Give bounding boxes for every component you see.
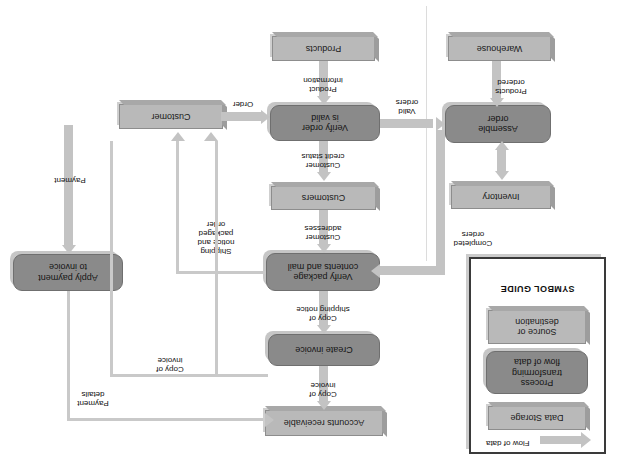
flow-label-product-information: Product information xyxy=(279,76,367,94)
data-store-inventory: Inventory xyxy=(451,185,551,209)
arrowhead-left-icon xyxy=(261,110,270,124)
arrowhead-up-icon xyxy=(495,171,509,180)
process-assemble-order: Assemble order xyxy=(445,105,551,143)
arrowhead-left-icon xyxy=(265,413,274,427)
arrowhead-up-icon xyxy=(317,244,331,253)
flow-label-payment-details: Payment details xyxy=(58,390,128,408)
node-label: Verify order is valid xyxy=(302,113,348,134)
symbol-guide-panel: Flow of data Data Storage Process transf… xyxy=(469,257,606,454)
arrow-customer-to-verify-order xyxy=(221,112,261,121)
process-verify-order: Verify order is valid xyxy=(270,105,380,141)
arrowhead-right-icon xyxy=(371,264,380,278)
process-apply-payment: Apply payment to invoice xyxy=(13,254,123,291)
external-entity-warehouse: Warehouse xyxy=(448,36,551,61)
arrowhead-up-icon xyxy=(490,98,504,107)
symbol-guide-process-shape: Process transforming flow of data xyxy=(486,351,588,394)
flow-label-copy-of-invoice-right: Copy of invoice xyxy=(135,356,205,374)
node-label: Accounts receivable xyxy=(284,418,365,428)
diagram-rotated-layer: Flow of data Data Storage Process transf… xyxy=(0,0,623,461)
symbol-guide-source-shape: Source or destination xyxy=(488,310,586,344)
process-create-invoice: Create invoice xyxy=(268,334,380,366)
node-label: Customers xyxy=(302,193,346,203)
data-store-customers: Customers xyxy=(271,186,376,210)
connector-copy-of-invoice-drop xyxy=(215,141,218,377)
node-label: Products xyxy=(306,43,342,53)
connector-copy-of-invoice-vertical xyxy=(110,141,113,377)
external-entity-customer: Customer xyxy=(119,104,223,129)
connector-shipping-notice-horizontal xyxy=(176,271,266,274)
connector-copy-of-invoice-horizontal xyxy=(110,374,268,377)
arrowhead-up-icon xyxy=(317,172,331,181)
arrowhead-up-icon xyxy=(317,96,331,105)
node-label: Create invoice xyxy=(295,345,353,355)
arrowhead-up-icon xyxy=(317,325,331,334)
flow-label-products-ordered: Products ordered xyxy=(471,78,551,96)
flow-label-valid-orders: Valid orders xyxy=(374,98,440,116)
symbol-guide-data-store-shape: Data Storage xyxy=(488,406,586,430)
node-label: Inventory xyxy=(482,192,519,202)
connector-payment-details-horizontal xyxy=(67,418,263,421)
arrowhead-up-icon xyxy=(62,245,76,254)
arrow-completed-orders-vertical xyxy=(436,130,445,275)
flow-label-completed-orders: Completed orders xyxy=(433,230,513,248)
node-label: Assemble order xyxy=(478,114,518,135)
arrowhead-down-icon xyxy=(495,141,509,150)
node-label: Warehouse xyxy=(477,43,523,53)
arrowhead-down-icon xyxy=(171,132,185,141)
node-label: Apply payment to invoice xyxy=(38,262,98,283)
arrow-verify-order-to-assemble-order xyxy=(380,119,433,128)
arrow-inventory-assemble-order-bidirectional xyxy=(497,150,506,172)
diagram-canvas: Flow of data Data Storage Process transf… xyxy=(0,0,623,461)
symbol-guide-title: SYMBOL GUIDE xyxy=(471,284,604,294)
data-store-accounts-receivable: Accounts receivable xyxy=(265,410,383,436)
symbol-guide-store-label: Data Storage xyxy=(510,413,563,423)
node-label: Verify package contents and mail xyxy=(288,262,359,283)
symbol-guide-process-label: Process transforming flow of data xyxy=(512,357,562,388)
flow-label-copy-of-invoice-up: Copy of invoice xyxy=(283,381,363,399)
arrowhead-down-icon xyxy=(204,132,218,141)
flow-label-payment: Payment xyxy=(35,176,105,185)
symbol-guide-source-label: Source or destination xyxy=(515,317,559,337)
arrowhead-up-icon xyxy=(317,401,331,410)
flow-label-customer-credit-status: Customer credit status xyxy=(275,152,371,170)
data-store-products: Products xyxy=(272,36,375,61)
process-verify-package: Verify package contents and mail xyxy=(266,253,380,291)
connector-shipping-notice-vertical xyxy=(176,141,179,274)
arrow-customer-to-apply-payment xyxy=(64,125,73,245)
flow-label-order: Order xyxy=(221,100,265,109)
symbol-guide-flow-label: Flow of data xyxy=(486,439,590,448)
flow-label-copy-of-shipping-notice: Copy of shipping notice xyxy=(268,305,378,323)
arrowhead-left-icon xyxy=(436,117,445,131)
node-label: Customer xyxy=(152,111,191,121)
page-hairline-divider xyxy=(426,6,427,261)
flow-label-customer-addresses: Customer addresses xyxy=(278,224,368,242)
